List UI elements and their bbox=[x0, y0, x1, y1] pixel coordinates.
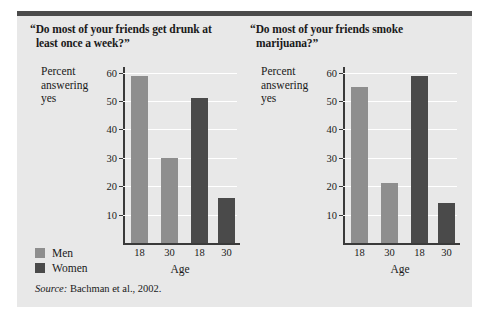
x-tick-label: 30 bbox=[155, 247, 185, 258]
y-axis-line bbox=[123, 67, 125, 243]
top-rule bbox=[17, 11, 472, 16]
x-tick-label: 18 bbox=[405, 247, 435, 258]
y-tick bbox=[119, 73, 123, 74]
chart-title-line1: “Do most of your friends get drunk at bbox=[30, 23, 212, 35]
x-tick-label: 18 bbox=[345, 247, 375, 258]
y-tick-label: 50 bbox=[107, 96, 118, 107]
chart-title: “Do most of your friends get drunk at le… bbox=[30, 23, 246, 50]
y-tick bbox=[119, 186, 123, 187]
y-tick-label: 20 bbox=[327, 181, 338, 192]
bar bbox=[411, 76, 428, 243]
y-tick bbox=[339, 158, 343, 159]
x-axis-label: Age bbox=[123, 263, 237, 275]
y-axis-label-line2: answering bbox=[41, 79, 117, 93]
plot-area: 102030405060 18301830 Age bbox=[343, 67, 457, 243]
y-tick bbox=[119, 101, 123, 102]
chart-panel-marijuana: “Do most of your friends smoke marijuana… bbox=[245, 23, 467, 291]
legend-label-women: Women bbox=[52, 262, 87, 274]
y-tick-label: 60 bbox=[107, 67, 118, 78]
x-axis-line bbox=[343, 243, 460, 245]
gridline bbox=[343, 73, 457, 74]
legend-label-men: Men bbox=[52, 247, 73, 259]
gridline bbox=[123, 73, 237, 74]
chart-title: “Do most of your friends smoke marijuana… bbox=[250, 23, 466, 50]
y-tick-label: 30 bbox=[327, 152, 338, 163]
y-tick bbox=[339, 215, 343, 216]
x-axis-line bbox=[123, 243, 240, 245]
x-tick-label: 30 bbox=[375, 247, 405, 258]
x-axis-label: Age bbox=[343, 263, 457, 275]
y-tick bbox=[119, 215, 123, 216]
chart-title-line2: marijuana?” bbox=[250, 37, 466, 51]
x-tick-label: 18 bbox=[125, 247, 155, 258]
source-citation: Bachman et al., 2002. bbox=[67, 283, 161, 294]
bar bbox=[131, 76, 148, 243]
source-prefix: Source: bbox=[35, 283, 67, 294]
plot-area: 102030405060 18301830 Age bbox=[123, 67, 237, 243]
y-tick-label: 60 bbox=[327, 67, 338, 78]
y-tick-label: 10 bbox=[327, 209, 338, 220]
bar bbox=[161, 158, 178, 243]
x-tick-label: 30 bbox=[432, 247, 462, 258]
y-tick bbox=[119, 129, 123, 130]
legend: Men Women bbox=[35, 245, 87, 275]
bar bbox=[438, 203, 455, 243]
bar bbox=[381, 183, 398, 243]
y-axis-line bbox=[343, 67, 345, 243]
legend-item-women: Women bbox=[35, 260, 87, 275]
x-tick-label: 18 bbox=[185, 247, 215, 258]
chart-title-line1: “Do most of your friends smoke bbox=[250, 23, 403, 35]
y-tick-label: 20 bbox=[107, 181, 118, 192]
y-tick bbox=[339, 101, 343, 102]
bar bbox=[191, 98, 208, 243]
y-tick-label: 40 bbox=[327, 124, 338, 135]
y-tick bbox=[339, 186, 343, 187]
y-tick bbox=[339, 129, 343, 130]
legend-item-men: Men bbox=[35, 245, 87, 260]
y-axis-label-line2: answering bbox=[261, 79, 337, 93]
legend-swatch-women bbox=[35, 263, 45, 273]
figure-panel: “Do most of your friends get drunk at le… bbox=[17, 11, 472, 307]
y-tick-label: 30 bbox=[107, 152, 118, 163]
chart-title-line2: least once a week?” bbox=[30, 37, 246, 51]
y-tick-label: 40 bbox=[107, 124, 118, 135]
x-tick-label: 30 bbox=[212, 247, 242, 258]
source-note: Source: Bachman et al., 2002. bbox=[35, 283, 161, 294]
y-tick-label: 50 bbox=[327, 96, 338, 107]
bar bbox=[351, 87, 368, 243]
y-tick bbox=[119, 158, 123, 159]
bar bbox=[218, 198, 235, 243]
y-tick-label: 10 bbox=[107, 209, 118, 220]
y-tick bbox=[339, 73, 343, 74]
legend-swatch-men bbox=[35, 248, 45, 258]
